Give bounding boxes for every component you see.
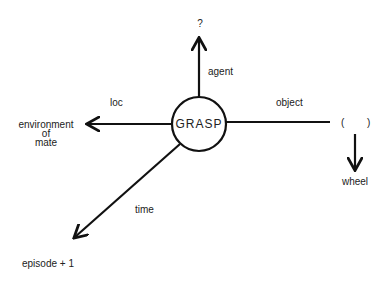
object-open-paren: ( [341,117,345,128]
time-target-label: episode + 1 [22,258,74,269]
time-arrow [75,144,180,237]
loc-edge-label: loc [110,97,123,108]
object-close-paren: ) [367,117,370,128]
grasp-diagram: GRASP ? agent loc object time environmen… [0,0,384,282]
grasp-label: GRASP [175,117,222,131]
agent-edge-label: agent [208,66,233,77]
wheel-label: wheel [341,176,368,187]
time-edge-label: time [135,204,154,215]
loc-target-line-3: mate [35,137,58,148]
agent-target-label: ? [197,18,203,29]
object-edge-label: object [276,97,303,108]
